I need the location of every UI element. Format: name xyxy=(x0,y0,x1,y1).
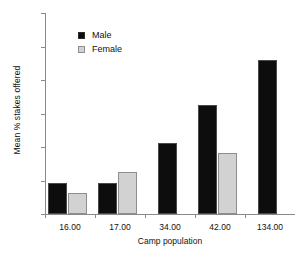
x-axis-line xyxy=(45,214,295,215)
legend-item-male: Male xyxy=(78,28,122,42)
x-tick-mark xyxy=(145,214,146,218)
legend-swatch-male-icon xyxy=(78,32,85,39)
bar-female-42.00 xyxy=(218,153,237,214)
y-tick: 20 xyxy=(45,147,46,148)
chart-legend: Male Female xyxy=(78,28,122,56)
y-tick: 60 xyxy=(45,13,46,14)
bar-male-16.00 xyxy=(48,183,67,214)
legend-label-male: Male xyxy=(92,31,112,40)
x-axis-title: Camp population xyxy=(45,236,295,246)
x-tick-mark xyxy=(45,214,46,218)
y-tick-mark xyxy=(41,147,45,148)
y-tick: 30 xyxy=(45,114,46,115)
y-tick: 10 xyxy=(45,181,46,182)
y-tick-mark xyxy=(41,80,45,81)
y-tick: 50 xyxy=(45,47,46,48)
bar-female-16.00 xyxy=(68,193,87,214)
bar-male-134.00 xyxy=(258,60,277,214)
x-tick-mark xyxy=(245,214,246,218)
y-tick-mark xyxy=(41,47,45,48)
legend-swatch-female-icon xyxy=(78,46,85,53)
legend-label-female: Female xyxy=(92,45,122,54)
bar-male-17.00 xyxy=(98,183,117,214)
bar-male-42.00 xyxy=(198,105,217,214)
bar-chart-figure: Mean % stakes offered 0102030405060 16.0… xyxy=(0,0,301,260)
y-tick-mark xyxy=(41,13,45,14)
y-tick-mark xyxy=(41,181,45,182)
y-tick: 40 xyxy=(45,80,46,81)
bar-male-34.00 xyxy=(158,143,177,214)
x-tick-mark xyxy=(195,214,196,218)
y-tick-mark xyxy=(41,114,45,115)
y-axis-title: Mean % stakes offered xyxy=(12,25,22,195)
x-tick-label: 134.00 xyxy=(240,222,300,232)
legend-item-female: Female xyxy=(78,42,122,56)
bar-female-17.00 xyxy=(118,172,137,214)
x-tick-mark xyxy=(95,214,96,218)
